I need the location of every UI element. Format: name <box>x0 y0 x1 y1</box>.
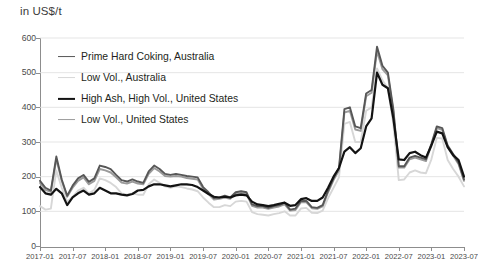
x-tick-label: 2022-01 <box>352 252 380 261</box>
y-tick-mark <box>36 142 40 143</box>
legend-line-swatch <box>58 94 75 104</box>
y-tick-label: 400 <box>2 103 36 112</box>
x-tick-mark <box>105 247 106 251</box>
x-tick-mark <box>301 247 302 251</box>
x-tick-label: 2017-07 <box>59 252 87 261</box>
x-tick-mark <box>203 247 204 251</box>
x-tick-mark <box>268 247 269 251</box>
x-tick-label: 2020-07 <box>254 252 282 261</box>
x-tick-label: 2023-01 <box>417 252 445 261</box>
x-tick-mark <box>431 247 432 251</box>
y-tick-label: 0 <box>2 242 36 251</box>
x-tick-label: 2021-07 <box>320 252 348 261</box>
y-tick-label: 600 <box>2 34 36 43</box>
x-tick-mark <box>170 247 171 251</box>
y-tick-mark <box>36 107 40 108</box>
x-tick-mark <box>138 247 139 251</box>
y-tick-mark <box>36 73 40 74</box>
y-tick-label: 100 <box>2 207 36 216</box>
x-tick-label: 2020-01 <box>222 252 250 261</box>
legend-label: Low Vol., United States <box>81 114 188 126</box>
y-tick-mark <box>36 177 40 178</box>
x-tick-mark <box>334 247 335 251</box>
x-tick-label: 2017-01 <box>26 252 54 261</box>
x-tick-label: 2023-07 <box>450 252 478 261</box>
legend-item[interactable]: Low Vol., Australia <box>58 67 358 88</box>
legend-label: High Ash, High Vol., United States <box>81 93 238 105</box>
x-tick-mark <box>464 247 465 251</box>
x-tick-mark <box>366 247 367 251</box>
legend-line-swatch <box>58 115 75 125</box>
legend-line-swatch <box>58 52 75 62</box>
y-tick-label: 200 <box>2 172 36 181</box>
legend-item[interactable]: Prime Hard Coking, Australia <box>58 46 358 67</box>
x-tick-label: 2019-07 <box>189 252 217 261</box>
x-axis-line <box>40 247 464 248</box>
legend-line-swatch <box>58 73 75 83</box>
x-tick-mark <box>40 247 41 251</box>
y-tick-mark <box>36 38 40 39</box>
legend-item[interactable]: Low Vol., United States <box>58 109 358 130</box>
x-tick-label: 2019-01 <box>157 252 185 261</box>
chart-legend: Prime Hard Coking, AustraliaLow Vol., Au… <box>58 46 358 130</box>
x-tick-mark <box>236 247 237 251</box>
y-tick-label: 500 <box>2 68 36 77</box>
x-tick-mark <box>399 247 400 251</box>
x-tick-label: 2018-07 <box>124 252 152 261</box>
x-tick-mark <box>73 247 74 251</box>
x-tick-label: 2021-01 <box>287 252 315 261</box>
legend-item[interactable]: High Ash, High Vol., United States <box>58 88 358 109</box>
x-tick-label: 2022-07 <box>385 252 413 261</box>
y-tick-label: 300 <box>2 138 36 147</box>
x-tick-label: 2018-01 <box>91 252 119 261</box>
y-axis-labels: 0100200300400500600 <box>0 0 36 272</box>
legend-label: Prime Hard Coking, Australia <box>81 51 214 63</box>
y-tick-mark <box>36 211 40 212</box>
legend-label: Low Vol., Australia <box>81 72 166 84</box>
